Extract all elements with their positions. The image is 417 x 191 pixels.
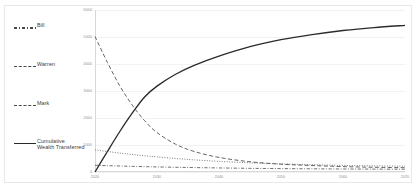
- x-tick-label: 2040: [215, 175, 223, 179]
- gridline: [95, 172, 405, 173]
- chart-legend: Bill Warren Mark Cumulative Wealth Trans…: [14, 16, 92, 168]
- legend-swatch-warren: [14, 63, 36, 71]
- y-tick-label: 5000: [84, 35, 92, 39]
- legend-label-bill: Bill: [36, 22, 45, 28]
- legend-item-mark: Mark: [14, 100, 92, 110]
- series-line-cumulative-wealth-transferred: [95, 25, 405, 172]
- x-tick-label: 2070: [401, 175, 409, 179]
- x-tick-label: 2060: [339, 175, 347, 179]
- y-tick-label: 4000: [84, 62, 92, 66]
- legend-item-bill: Bill: [14, 22, 92, 32]
- y-tick-label: 6000: [84, 8, 92, 12]
- y-tick-label: 2000: [84, 116, 92, 120]
- legend-item-warren: Warren: [14, 61, 92, 71]
- chart-figure: Bill Warren Mark Cumulative Wealth Trans…: [0, 0, 417, 191]
- legend-item-cumulative-wealth-transferred: Cumulative Wealth Transferred: [14, 138, 92, 151]
- series-line-mark: [95, 150, 405, 166]
- legend-swatch-bill: [14, 24, 36, 32]
- x-tick-label: 2050: [277, 175, 285, 179]
- y-tick-label: 0: [90, 170, 92, 174]
- series-lines: [95, 10, 405, 172]
- legend-label-mark: Mark: [36, 100, 49, 106]
- y-tick-label: 3000: [84, 89, 92, 93]
- y-tick-label: 1000: [84, 143, 92, 147]
- plot-area: 0100020003000400050006000 20202030204020…: [95, 10, 405, 172]
- legend-label-cumulative: Cumulative Wealth Transferred: [36, 138, 85, 151]
- legend-swatch-mark: [14, 102, 36, 110]
- legend-swatch-cumulative: [14, 140, 36, 148]
- x-tick-label: 2020: [91, 175, 99, 179]
- series-line-warren: [95, 36, 405, 167]
- x-tick-label: 2030: [153, 175, 161, 179]
- legend-label-warren: Warren: [36, 61, 55, 67]
